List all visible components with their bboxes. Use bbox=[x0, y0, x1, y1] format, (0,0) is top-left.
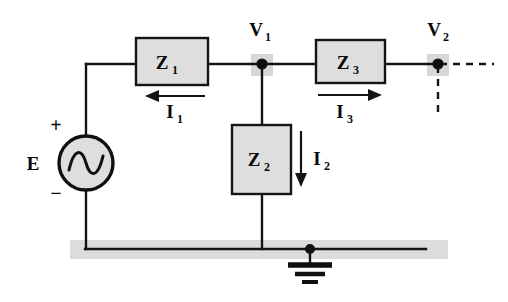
current-i3-subscript: 3 bbox=[347, 112, 353, 126]
impedance-z1-subscript: 1 bbox=[172, 63, 178, 77]
source-plus-sign: + bbox=[50, 114, 61, 136]
node-v2-subscript: 2 bbox=[443, 30, 449, 44]
current-i3-label: I bbox=[336, 101, 343, 122]
current-i1-label: I bbox=[166, 101, 173, 122]
impedance-z3-label: Z bbox=[337, 52, 350, 73]
circuit-diagram: Z 1 Z 2 Z 3 I 1 I 2 I 3 V 1 V 2 E + − bbox=[0, 0, 508, 302]
current-i1-arrow-head bbox=[145, 90, 159, 102]
impedance-z1-box bbox=[136, 38, 208, 85]
current-i2-subscript: 2 bbox=[324, 159, 330, 173]
current-i3-arrow-head bbox=[368, 89, 382, 101]
node-v2-dot bbox=[432, 58, 443, 69]
node-v1-label: V bbox=[249, 19, 263, 40]
impedance-z2-label: Z bbox=[248, 149, 261, 170]
impedance-z1-label: Z bbox=[156, 52, 169, 73]
current-i2-label: I bbox=[313, 148, 320, 169]
impedance-z2-box bbox=[232, 125, 291, 194]
impedance-z3-box bbox=[316, 40, 385, 83]
node-v1-subscript: 1 bbox=[265, 30, 271, 44]
impedance-z2-subscript: 2 bbox=[264, 160, 270, 174]
source-label: E bbox=[27, 153, 40, 174]
node-v1-dot bbox=[256, 58, 267, 69]
current-i2-arrow-head bbox=[295, 173, 307, 187]
current-i1-subscript: 1 bbox=[177, 112, 183, 126]
source-minus-sign: − bbox=[50, 182, 61, 204]
circuit-canvas: Z 1 Z 2 Z 3 I 1 I 2 I 3 V 1 V 2 E + − bbox=[0, 0, 508, 302]
impedance-z3-subscript: 3 bbox=[353, 63, 359, 77]
node-v2-label: V bbox=[427, 19, 441, 40]
